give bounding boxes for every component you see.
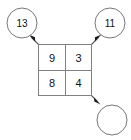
number-grid	[39, 45, 92, 96]
grid-cell-r1c0: 8	[49, 77, 55, 89]
diagram-svg: 9 3 8 4 13 11	[0, 0, 131, 140]
arrow-to-bottom-right-icon	[92, 96, 101, 105]
node-top-right-label: 11	[105, 18, 116, 29]
node-top-left: 13	[7, 8, 37, 38]
grid-cell-r1c1: 4	[75, 77, 81, 89]
node-top-right: 11	[95, 8, 125, 38]
node-top-left-label: 13	[16, 18, 28, 29]
grid-cell-r0c1: 3	[75, 52, 81, 64]
node-bottom-right	[97, 105, 127, 135]
diagram-canvas: 9 3 8 4 13 11	[0, 0, 131, 140]
grid-cell-r0c0: 9	[49, 52, 55, 64]
node-bottom-right-circle	[97, 105, 127, 135]
arrow-to-top-right-icon	[92, 35, 102, 45]
